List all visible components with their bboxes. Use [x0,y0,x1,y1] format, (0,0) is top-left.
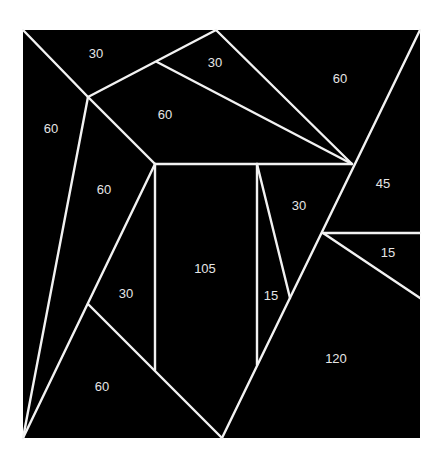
angle-label: 30 [208,55,222,70]
angle-label: 60 [158,107,172,122]
angle-label: 60 [97,182,111,197]
angle-label: 60 [95,379,109,394]
angle-label: 15 [264,288,278,303]
angle-label: 15 [381,245,395,260]
angle-label: 45 [376,176,390,191]
angle-label: 120 [325,351,347,366]
angle-label: 105 [194,261,216,276]
angle-label: 30 [89,46,103,61]
angle-label: 30 [119,286,133,301]
angle-label: 60 [333,71,347,86]
angle-label: 60 [44,121,58,136]
angle-diagram: 303060606060304515105301512060 [0,0,445,465]
angle-label: 30 [292,198,306,213]
